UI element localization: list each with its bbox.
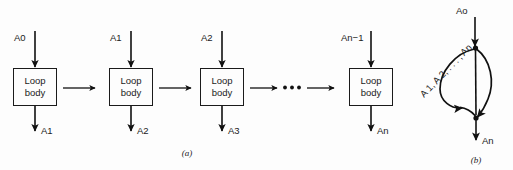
stage-n-output-label: An <box>377 125 389 136</box>
stage-1-input-label: A0 <box>14 32 26 43</box>
stage-1: A0 Loop body A1 <box>14 31 96 136</box>
panel-b-loop-forward-edge <box>477 49 492 117</box>
stage-2: A1 Loop body A2 <box>110 31 192 136</box>
ellipsis-dot-1 <box>283 86 287 90</box>
figure-svg: A0 Loop body A1 A1 Loop body A2 A2 Loop <box>0 0 513 170</box>
stage-3-input-label: A2 <box>201 32 213 43</box>
panel-a-caption: (a) <box>182 148 193 158</box>
stage-2-output-label: A2 <box>137 125 149 136</box>
ellipsis-dot-3 <box>297 86 301 90</box>
stage-3-box-label-line1: Loop <box>211 75 232 86</box>
panel-b-chord-edge <box>476 50 477 115</box>
stage-1-box-label-line2: body <box>25 87 46 98</box>
stage-3: A2 Loop body A3 <box>201 31 278 136</box>
stage-2-box-label-line2: body <box>121 87 142 98</box>
panel-b-input-label: Ao <box>456 5 468 16</box>
stage-n-box-label-line2: body <box>361 87 382 98</box>
panel-b-loop-label: A 1, A 2, . . . , An <box>418 42 474 100</box>
stage-n: An−1 Loop body An <box>341 31 393 136</box>
stage-1-box-label-line1: Loop <box>24 75 45 86</box>
ellipsis-dot-2 <box>290 86 294 90</box>
panel-b: Ao A 1, A 2, . . . , An An (b) <box>418 5 494 165</box>
panel-b-output-label: An <box>482 135 494 146</box>
stage-3-box-label-line2: body <box>212 87 233 98</box>
stage-1-output-label: A1 <box>41 125 53 136</box>
stage-2-input-label: A1 <box>110 32 122 43</box>
panel-b-lower-node <box>473 115 478 120</box>
stage-n-box-label-line1: Loop <box>360 75 381 86</box>
stage-n-input-label: An−1 <box>341 32 363 43</box>
panel-b-loop-back-edge-lower <box>460 107 476 116</box>
stage-3-output-label: A3 <box>228 125 240 136</box>
stage-ellipsis <box>283 86 334 90</box>
figure-container: A0 Loop body A1 A1 Loop body A2 A2 Loop <box>0 0 513 170</box>
stage-2-box-label-line1: Loop <box>120 75 141 86</box>
panel-b-caption: (b) <box>471 155 482 165</box>
